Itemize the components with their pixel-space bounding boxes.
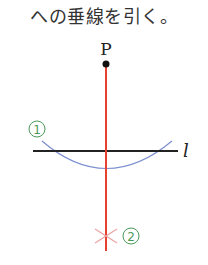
perpendicular-construction-figure: への垂線を引く。 1 2 P l [0, 0, 208, 265]
step-2-number: 2 [127, 230, 135, 244]
construction-diagram: 1 2 P l [0, 0, 208, 265]
step-1-number: 1 [33, 123, 41, 137]
step-2-marker: 2 [123, 228, 139, 244]
line-l-label: l [183, 140, 189, 161]
point-p-dot [103, 61, 110, 68]
point-p-label: P [100, 39, 111, 59]
step-1-marker: 1 [29, 121, 45, 137]
